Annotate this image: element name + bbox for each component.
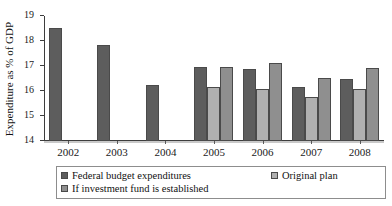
legend-swatch-icon [61, 185, 68, 192]
bar-group-2007 [287, 16, 336, 141]
y-axis-tick-label: 18 [24, 35, 34, 45]
legend-swatch-icon [271, 172, 278, 179]
bar-2007-series-0[interactable] [292, 87, 305, 142]
bar-2005-series-1[interactable] [207, 87, 220, 141]
bar-2007-series-1[interactable] [305, 97, 318, 142]
bar-2002-series-0[interactable] [49, 28, 62, 141]
bar-group-2003 [93, 16, 142, 141]
x-axis-tick-label-2005: 2005 [190, 146, 239, 158]
bar-2005-series-0[interactable] [194, 67, 207, 141]
bar-2006-series-2[interactable] [269, 63, 282, 141]
bar-2005-series-2[interactable] [220, 67, 233, 141]
y-axis-tick-label: 16 [24, 85, 34, 95]
x-axis-tick [68, 141, 69, 144]
x-axis-tick [117, 141, 118, 144]
x-axis-tick-label-2002: 2002 [44, 146, 93, 158]
x-axis-tick [165, 141, 166, 144]
x-axis-tick [263, 141, 264, 144]
bar-2006-series-0[interactable] [243, 69, 256, 141]
y-axis-tick-label: 14 [24, 135, 34, 145]
legend-swatch-icon [61, 172, 68, 179]
y-axis-tick-label: 17 [24, 60, 34, 70]
bar-group-2002 [44, 16, 93, 141]
legend-item-if-investment-fund-is-established[interactable]: If investment fund is established [61, 182, 208, 195]
legend-item-label: Original plan [282, 169, 338, 182]
scan-artifact-strip [0, 0, 392, 10]
bar-group-2004 [141, 16, 190, 141]
legend-item-label: Federal budget expenditures [72, 169, 191, 182]
legend-item-label: If investment fund is established [72, 182, 208, 195]
y-axis-tick-label: 15 [24, 110, 34, 120]
bar-group-2008 [335, 16, 384, 141]
x-axis-tick-label-2003: 2003 [93, 146, 142, 158]
y-axis-tick-label: 19 [24, 10, 34, 20]
bar-2003-series-0[interactable] [97, 45, 110, 141]
bar-2008-series-0[interactable] [340, 79, 353, 141]
legend-row-1: Federal budget expenditures Original pla… [61, 169, 381, 182]
x-axis-tick-label-2004: 2004 [141, 146, 190, 158]
legend: Federal budget expenditures Original pla… [56, 166, 386, 199]
legend-item-original-plan[interactable]: Original plan [271, 169, 338, 182]
bar-2008-series-1[interactable] [353, 89, 366, 142]
x-axis-tick [311, 141, 312, 144]
legend-row-2: If investment fund is established [61, 182, 381, 195]
bar-2004-series-0[interactable] [146, 85, 159, 141]
y-axis-title-text: Expenditure as % of GDP [3, 21, 15, 135]
bar-group-2006 [238, 16, 287, 141]
x-axis-tick-label-2008: 2008 [335, 146, 384, 158]
chart-root: Expenditure as % of GDP 141516171819 200… [0, 0, 392, 206]
bar-group-2005 [190, 16, 239, 141]
bar-2007-series-2[interactable] [318, 78, 331, 141]
bar-2006-series-1[interactable] [256, 89, 269, 141]
plot-area: 141516171819 [44, 16, 384, 141]
x-axis-tick [214, 141, 215, 144]
legend-item-federal-budget-expenditures[interactable]: Federal budget expenditures [61, 169, 191, 182]
bar-2008-series-2[interactable] [366, 68, 379, 141]
y-axis-title: Expenditure as % of GDP [2, 16, 16, 141]
x-axis-tick-label-2006: 2006 [238, 146, 287, 158]
x-axis-tick-label-2007: 2007 [287, 146, 336, 158]
x-axis-tick [360, 141, 361, 144]
